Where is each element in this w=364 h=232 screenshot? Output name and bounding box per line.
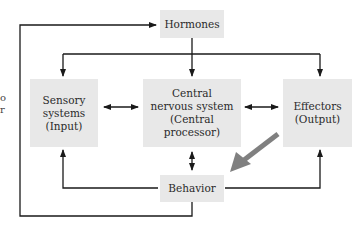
node-label: Effectors [293,100,341,113]
node-effectors: Effectors (Output) [283,79,352,147]
fragment-text: o [0,92,6,103]
node-central-nervous-system: Central nervous system (Central processo… [143,79,241,147]
node-label: Behavior [168,182,216,195]
left-edge-fragment: o [0,92,6,104]
node-label: systems [43,107,86,120]
node-label: nervous system [143,100,241,113]
node-label: (Central processor) [143,113,241,139]
behavior-to-sensory-arrow [63,150,158,188]
node-label: Sensory [43,94,86,107]
fragment-text: r [0,104,5,115]
node-label: (Input) [43,120,86,133]
diagram-canvas: o r Hormones Sensory systems (Input) Cen… [0,0,364,232]
node-label: (Output) [293,113,341,126]
node-sensory-systems: Sensory systems (Input) [30,79,98,147]
node-label: Central [143,87,241,100]
left-edge-fragment: r [0,104,5,116]
node-hormones: Hormones [160,10,224,38]
node-label: Hormones [164,18,219,31]
node-behavior: Behavior [160,175,224,202]
